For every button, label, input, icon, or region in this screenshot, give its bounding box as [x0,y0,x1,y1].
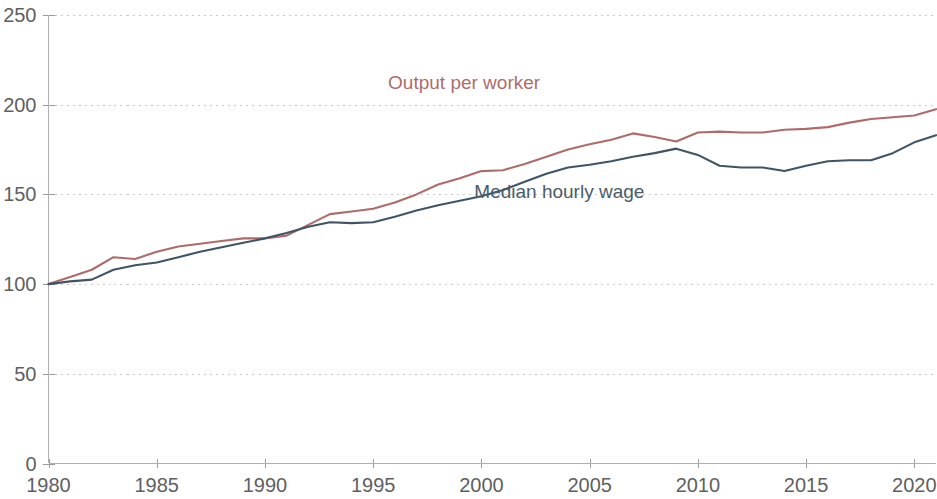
x-axis-tick-label: 1980 [26,474,71,496]
y-axis-tick-label: 100 [3,273,36,295]
y-axis-tick-label: 50 [14,363,36,385]
y-axis-tick-label: 200 [3,94,36,116]
x-axis-tick-label: 2015 [784,474,829,496]
x-axis-tick-label: 2010 [676,474,721,496]
x-axis-tick-label: 2020 [892,474,937,496]
line-chart: 050100150200250 198019851990199520002005… [0,0,937,499]
x-axis-tick-label: 2005 [567,474,612,496]
x-axis-tick-label: 1985 [134,474,179,496]
data-line-median-hourly-wage [49,135,937,284]
y-axis-tick-labels: 050100150200250 [3,4,36,475]
y-axis-tick-label: 150 [3,183,36,205]
x-axis-tick-label: 1995 [351,474,396,496]
y-axis-tick-label: 0 [25,453,36,475]
series-label-output-per-worker: Output per worker [388,72,541,93]
x-axis-tick-labels: 198019851990199520002005201020152020 [26,474,936,496]
x-axis-tick-label: 1990 [243,474,288,496]
y-axis-tick-label: 250 [3,4,36,26]
x-axis-tick-label: 2000 [459,474,504,496]
chart-container: 050100150200250 198019851990199520002005… [0,0,937,499]
series-label-median-hourly-wage: Median hourly wage [474,181,644,202]
